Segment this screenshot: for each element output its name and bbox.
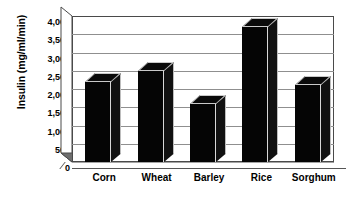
bar-side-face [268, 19, 278, 162]
bars-layer [72, 16, 334, 162]
x-axis-category-label: Corn [93, 172, 116, 183]
bar-side-face [216, 95, 226, 162]
bar-chart: Insulin (mg/ml/min) 05001,0001,5002,0002… [0, 0, 349, 198]
x-axis-category-label: Wheat [142, 172, 172, 183]
plot-area [72, 16, 334, 162]
x-axis-category-label: Sorghum [292, 172, 336, 183]
bar [85, 82, 111, 162]
bar-front-face [295, 85, 321, 162]
bar-front-face [138, 71, 164, 162]
x-axis-line [72, 168, 346, 169]
bar [190, 104, 216, 162]
bar-side-face [111, 73, 121, 162]
bar [138, 71, 164, 162]
x-axis-category-labels: CornWheatBarleyRiceSorghum [72, 168, 348, 184]
bar [242, 27, 268, 162]
bar-front-face [85, 82, 111, 162]
y-axis-tick-labels: 05001,0001,5002,0002,5003,0003,5004,000 [26, 14, 70, 162]
bar-side-face [321, 77, 331, 162]
bar-front-face [190, 104, 216, 162]
x-axis-category-label: Barley [194, 172, 225, 183]
x-axis-category-label: Rice [251, 172, 272, 183]
bar-front-face [242, 27, 268, 162]
bar-side-face [164, 62, 174, 162]
bar [295, 85, 321, 162]
